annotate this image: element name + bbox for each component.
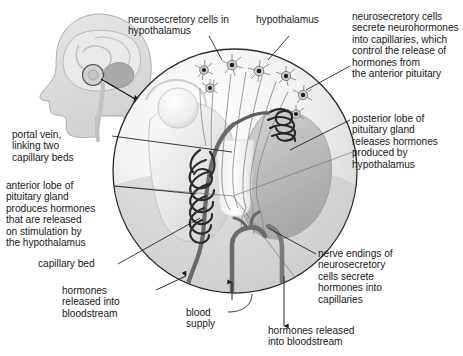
label-secrete-neurohormones: neurosecretory cells secrete neurohormon…: [352, 11, 463, 79]
diagram-canvas: neurosecretory cells in hypothalamus hyp…: [0, 0, 463, 356]
label-capillary-bed: capillary bed: [38, 258, 120, 269]
label-hormones-released-right: hormones released into bloodstream: [268, 325, 396, 348]
label-posterior-lobe: posterior lobe of pituitary gland releas…: [352, 113, 460, 170]
label-hypothalamus: hypothalamus: [256, 14, 336, 25]
label-blood-supply: blood supply: [186, 307, 232, 330]
label-anterior-lobe: anterior lobe of pituitary gland produce…: [6, 180, 118, 248]
label-neurosecretory-cells-in-hypothalamus: neurosecretory cells in hypothalamus: [128, 14, 246, 37]
label-nerve-endings: nerve endings of neurosecretory cells se…: [318, 248, 434, 305]
label-hormones-released-left: hormones released into bloodstream: [62, 285, 152, 319]
label-portal-vein: portal vein, linking two capillary beds: [12, 129, 118, 163]
